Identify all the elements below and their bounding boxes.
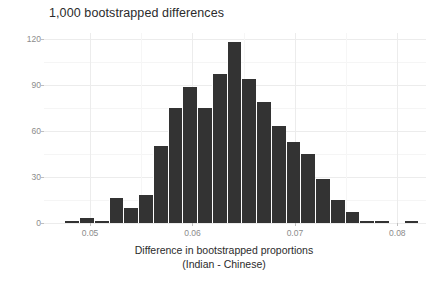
x-axis-tick-label: 0.06 xyxy=(184,228,201,238)
histogram-bar xyxy=(212,74,227,223)
y-axis-tick-label: 60 xyxy=(32,126,41,136)
x-axis-tick-mark xyxy=(192,223,193,226)
histogram-bar xyxy=(227,42,242,223)
histogram-bar xyxy=(197,108,212,223)
histogram-bar xyxy=(330,200,345,223)
x-axis-title: Difference in bootstrapped proportions (… xyxy=(0,244,448,271)
y-axis-tick-label: 30 xyxy=(32,172,41,182)
histogram-chart: 1,000 bootstrapped differences Count 030… xyxy=(0,0,448,282)
histogram-bar xyxy=(153,146,168,223)
histogram-bar xyxy=(109,198,124,223)
histogram-bar xyxy=(182,87,197,223)
x-axis-tick-mark xyxy=(295,223,296,226)
histogram-bar xyxy=(359,221,374,223)
histogram-bar xyxy=(315,179,330,223)
gridline-horizontal xyxy=(44,223,426,224)
histogram-bar xyxy=(404,221,419,223)
histogram-bar xyxy=(241,79,256,223)
histogram-bar xyxy=(138,195,153,223)
y-axis-tick-group: 0306090120 xyxy=(0,0,41,282)
x-axis-tick-mark xyxy=(397,223,398,226)
x-axis-tick-mark xyxy=(90,223,91,226)
x-axis-tick-label: 0.08 xyxy=(389,228,406,238)
histogram-bar xyxy=(300,154,315,223)
histogram-bar xyxy=(271,126,286,223)
histogram-bar xyxy=(345,212,360,223)
histogram-bar xyxy=(168,108,183,223)
x-axis-tick-label: 0.07 xyxy=(287,228,304,238)
histogram-bar xyxy=(64,221,79,223)
bar-series xyxy=(44,33,426,223)
histogram-bar xyxy=(123,208,138,223)
y-axis-tick-label: 120 xyxy=(27,34,41,44)
histogram-bar xyxy=(256,102,271,223)
x-axis-title-line2: (Indian - Chinese) xyxy=(0,258,448,272)
histogram-bar xyxy=(79,218,94,223)
y-axis-tick-label: 90 xyxy=(32,80,41,90)
plot-area xyxy=(44,33,426,223)
chart-title: 1,000 bootstrapped differences xyxy=(49,6,224,20)
histogram-bar xyxy=(94,221,109,223)
x-axis-tick-label: 0.05 xyxy=(82,228,99,238)
x-axis-title-line1: Difference in bootstrapped proportions xyxy=(0,244,448,258)
histogram-bar xyxy=(286,142,301,223)
histogram-bar xyxy=(374,221,389,223)
